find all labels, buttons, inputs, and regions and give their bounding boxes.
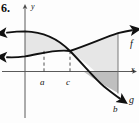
- point-label-b: b: [113, 105, 118, 114]
- curve-label-g: g: [129, 95, 134, 105]
- x-axis-label: x: [131, 66, 135, 74]
- curve-label-f: f: [130, 39, 133, 49]
- y-axis-label: y: [31, 3, 35, 11]
- figure-svg: [0, 0, 139, 123]
- point-label-a: a: [40, 78, 45, 87]
- problem-number: 6.: [1, 2, 10, 14]
- figure-container: 6. y x f g a c b: [0, 0, 139, 123]
- point-label-c: c: [66, 78, 70, 87]
